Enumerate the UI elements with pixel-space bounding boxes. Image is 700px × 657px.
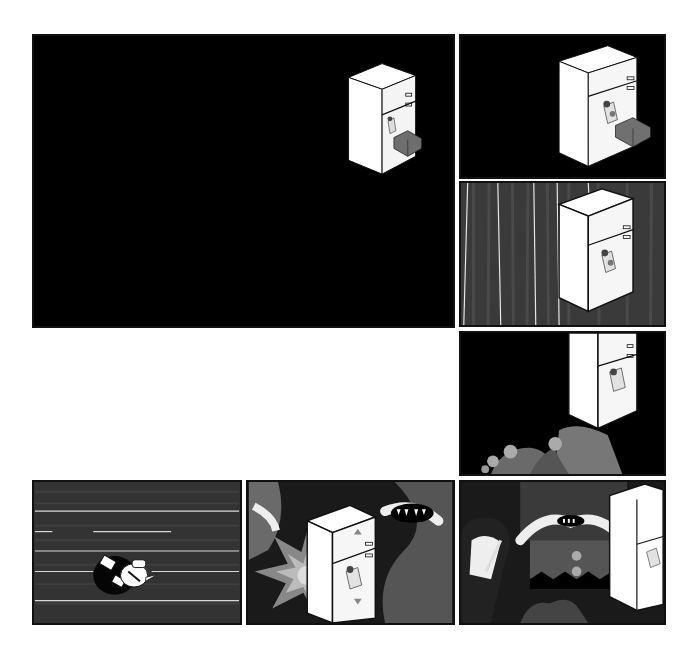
panel-1: Black void with a small white refrigerat… (32, 34, 455, 328)
refrigerator-illustration (34, 36, 453, 326)
panel-4: Refrigerator descending onto jester-hat … (459, 331, 666, 476)
panel-5: Small round character rolling across gra… (32, 480, 242, 625)
refrigerator-illustration (461, 36, 664, 177)
panel-2: Closer view of refrigerator with note ma… (459, 34, 666, 179)
panel-3: Refrigerator against dark gray backgroun… (459, 181, 666, 327)
rolling-character-speed-lines (34, 482, 240, 623)
speed-lines-and-refrigerator (461, 183, 664, 325)
panel-7: Mustached jester monster with buttons, a… (459, 480, 666, 625)
panel-6: Refrigerator slams into explosion burst … (246, 480, 455, 625)
jester-monster-scene (461, 482, 664, 623)
explosion-and-monster (248, 482, 453, 623)
jester-and-refrigerator (461, 333, 664, 474)
